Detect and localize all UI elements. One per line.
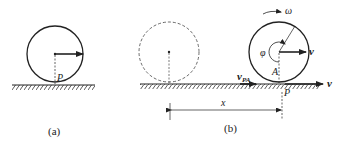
initial-center-dot (168, 51, 170, 53)
contact-point-label-a: P (57, 73, 63, 83)
relative-velocity-subscript: PA (242, 76, 250, 84)
center-velocity-label: v (309, 46, 314, 57)
omega-arrow (263, 11, 281, 14)
displacement-label: x (221, 98, 225, 108)
radius-line-b (279, 26, 295, 52)
omega-label: ω (285, 6, 292, 16)
figure-a (12, 26, 95, 90)
point-a-label: A (272, 67, 278, 77)
ground-hatch-a (12, 85, 95, 90)
figure-b (139, 11, 323, 120)
rolling-wheel-diagram: P (a) ω φ A P v v vPA x (b) (0, 0, 337, 148)
relative-velocity-label: vPA (237, 71, 250, 84)
contact-point-label-b: P (284, 88, 290, 98)
caption-a: (a) (48, 126, 60, 137)
phi-label: φ (260, 48, 266, 58)
caption-b: (b) (224, 123, 237, 134)
ground-velocity-label: v (327, 78, 332, 89)
